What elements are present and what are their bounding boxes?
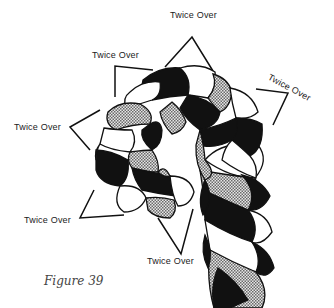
- figure-caption: Figure 39: [44, 274, 104, 288]
- label-twice-over-bottom-left: Twice Over: [24, 215, 71, 225]
- label-twice-over-top: Twice Over: [170, 10, 217, 20]
- label-twice-over-left: Twice Over: [14, 122, 61, 132]
- label-twice-over-upper-left: Twice Over: [92, 50, 139, 60]
- label-twice-over-bottom: Twice Over: [147, 256, 194, 266]
